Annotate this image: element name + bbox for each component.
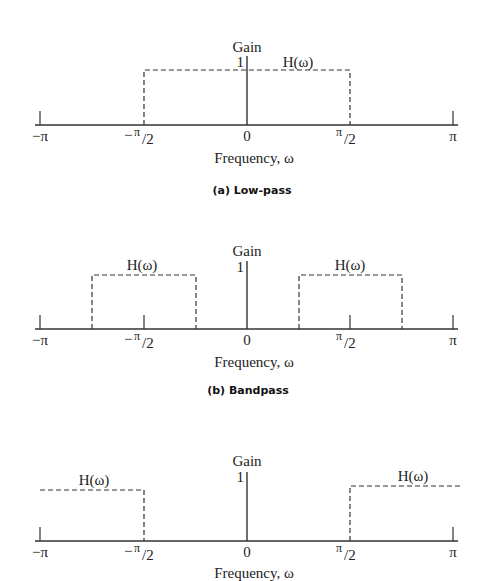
x-axis-label: Frequency, ω: [214, 150, 294, 166]
y-tick-one: 1: [237, 259, 245, 275]
y-tick-one: 1: [237, 469, 245, 485]
svg-text:π: π: [336, 329, 342, 343]
x-axis-label: Frequency, ω: [214, 354, 294, 370]
tick-label-neg-pi: −π: [32, 544, 48, 560]
svg-text:π: π: [134, 541, 140, 555]
curve-label: H(ω): [283, 54, 314, 71]
y-axis-label: Gain: [232, 453, 262, 469]
tick-label-neg-pi: −π: [32, 128, 48, 144]
tick-label-neg-half-pi: − π /2: [124, 329, 154, 351]
chart-highpass: Gain 1 H(ω) H(ω) −π − π /2 0 π /2 π Freq…: [32, 453, 460, 581]
chart-lowpass: Gain 1 H(ω) −π − π /2 0 π /2 π Frequency…: [32, 39, 458, 197]
highpass-response-left: [40, 490, 144, 541]
curve-label-right: H(ω): [398, 468, 429, 485]
svg-text:/2: /2: [142, 547, 154, 563]
svg-text:π: π: [336, 125, 342, 139]
svg-text:π: π: [134, 329, 140, 343]
tick-label-neg-pi: −π: [32, 332, 48, 348]
tick-label-pi: π: [449, 332, 457, 348]
y-tick-one: 1: [237, 54, 245, 70]
svg-text:π: π: [134, 125, 140, 139]
tick-label-neg-half-pi: − π /2: [124, 125, 154, 147]
curve-label-left: H(ω): [127, 257, 158, 274]
tick-label-pi: π: [449, 128, 457, 144]
curve-label-right: H(ω): [335, 257, 366, 274]
svg-text:−: −: [124, 127, 132, 143]
svg-text:/2: /2: [142, 131, 154, 147]
svg-text:−: −: [124, 543, 132, 559]
svg-text:π: π: [336, 541, 342, 555]
svg-text:/2: /2: [344, 547, 356, 563]
tick-label-zero: 0: [243, 332, 251, 348]
tick-label-zero: 0: [243, 128, 251, 144]
tick-label-half-pi: π /2: [336, 541, 356, 563]
caption-bandpass: (b) Bandpass: [207, 384, 289, 397]
svg-text:/2: /2: [344, 335, 356, 351]
tick-label-half-pi: π /2: [336, 329, 356, 351]
tick-label-pi: π: [449, 544, 457, 560]
curve-label-left: H(ω): [79, 472, 110, 489]
svg-text:/2: /2: [344, 131, 356, 147]
x-axis-label: Frequency, ω: [214, 565, 294, 581]
svg-text:−: −: [124, 331, 132, 347]
y-axis-label: Gain: [232, 243, 262, 259]
svg-text:/2: /2: [142, 335, 154, 351]
tick-label-half-pi: π /2: [336, 125, 356, 147]
tick-label-zero: 0: [243, 544, 251, 560]
chart-bandpass: Gain 1 H(ω) H(ω) −π − π /2 0 π /2 π Freq…: [32, 243, 458, 397]
tick-label-neg-half-pi: − π /2: [124, 541, 154, 563]
filter-diagrams: Gain 1 H(ω) −π − π /2 0 π /2 π Frequency…: [0, 0, 485, 581]
caption-lowpass: (a) Low-pass: [213, 184, 292, 197]
highpass-response-right: [350, 486, 460, 541]
y-axis-label: Gain: [232, 39, 262, 55]
